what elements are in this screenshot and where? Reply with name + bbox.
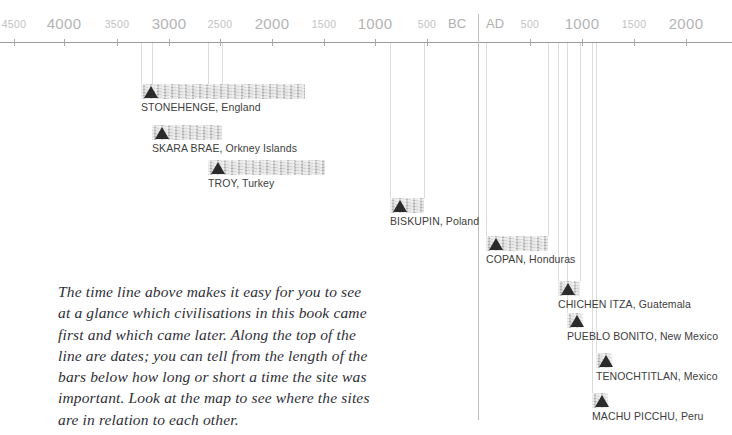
triangle-marker-icon [211,162,225,174]
axis-tick-label: 1500 [622,18,647,30]
axis-tick [427,39,428,46]
axis-tick [324,39,325,46]
axis-tick [14,39,15,46]
axis-tick [686,39,687,46]
site-name-label: SKARA BRAE, Orkney Islands [152,142,297,154]
axis-tick [582,39,583,46]
site-drop-line [222,43,223,84]
site-drop-line [141,43,142,84]
timeline-axis-line [0,42,732,43]
axis-tick [530,39,531,46]
site-name-label: MACHU PICCHU, Peru [592,410,703,422]
site-drop-line [580,43,581,281]
axis-tick-label: 2000 [255,15,290,32]
axis-tick [375,39,376,46]
axis-tick-label: 500 [521,18,539,30]
site-drop-line [424,43,425,198]
axis-tick-label: 4000 [47,15,82,32]
axis-tick [272,39,273,46]
axis-tick [117,39,118,46]
axis-tick-label: 2500 [208,18,233,30]
site-drop-line [548,43,549,236]
timeline-canvas: 4500400035003000250020001500100050050010… [0,0,732,435]
axis-tick-label: 3500 [105,18,130,30]
site-drop-line [567,43,568,313]
axis-tick [220,39,221,46]
axis-tick-label: 1000 [358,15,393,32]
site-name-label: BISKUPIN, Poland [390,215,479,227]
triangle-marker-icon [561,283,575,295]
axis-tick-label: 1500 [312,18,337,30]
triangle-marker-icon [489,238,503,250]
axis-tick-label: 1000 [565,15,600,32]
site-name-label: TENOCHTITLAN, Mexico [596,370,718,382]
site-name-label: COPAN, Honduras [486,253,575,265]
site-duration-bar[interactable] [208,160,325,175]
era-label-bc: BC [448,16,466,31]
triangle-marker-icon [144,86,158,98]
site-name-label: CHICHEN ITZA, Guatemala [558,298,691,310]
site-drop-line [390,43,391,198]
site-duration-bar[interactable] [141,84,305,99]
site-drop-line [208,43,209,84]
triangle-marker-icon [570,315,584,327]
site-drop-line [486,43,487,236]
site-name-label: TROY, Turkey [208,177,274,189]
axis-tick-label: 500 [418,18,436,30]
site-drop-line [558,43,559,281]
axis-tick-label: 4500 [2,18,27,30]
explanatory-caption: The time line above makes it easy for yo… [58,281,388,430]
axis-tick-label: 2000 [669,15,704,32]
site-drop-line [152,43,153,84]
triangle-marker-icon [595,395,609,407]
axis-tick [169,39,170,46]
triangle-marker-icon [599,355,613,367]
site-name-label: STONEHENGE, England [141,101,261,113]
site-name-label: PUEBLO BONITO, New Mexico [567,330,718,342]
axis-tick [64,39,65,46]
triangle-marker-icon [393,200,407,212]
triangle-marker-icon [155,127,169,139]
axis-tick-label: 3000 [152,15,187,32]
era-label-ad: AD [486,16,504,31]
axis-tick [634,39,635,46]
